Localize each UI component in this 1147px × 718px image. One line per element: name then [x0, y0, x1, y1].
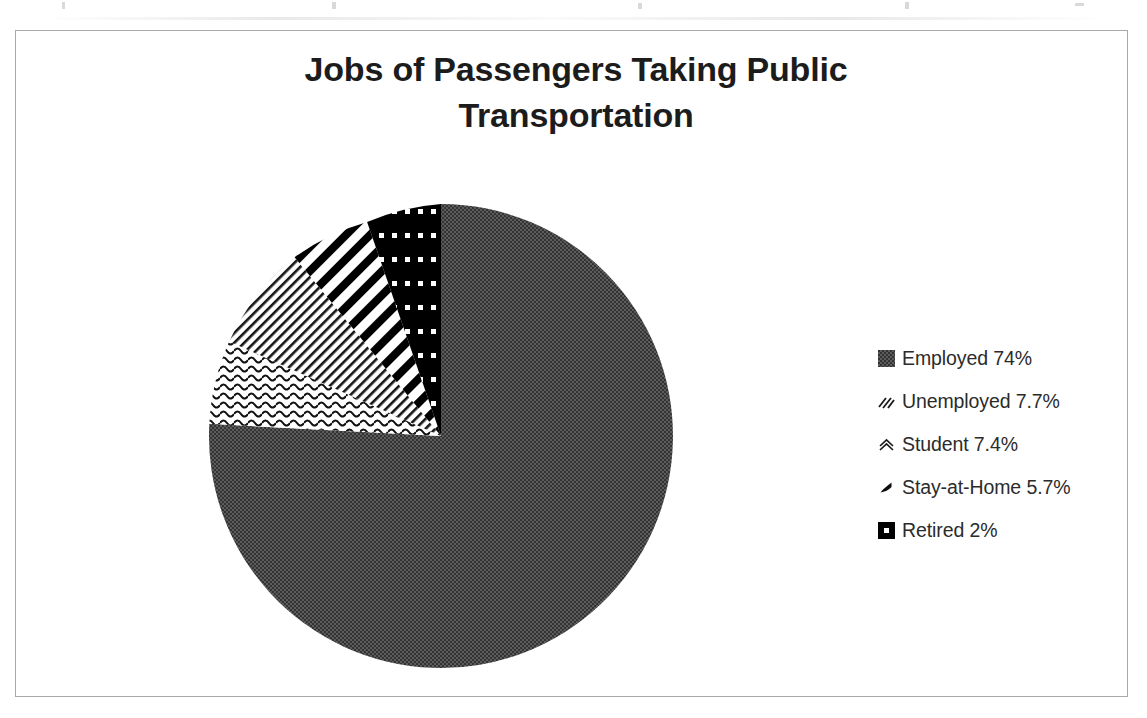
legend-label-student: Student 7.4% [902, 433, 1018, 456]
scan-speck [332, 2, 336, 9]
legend-swatch-unemployed [878, 393, 895, 410]
legend-item-employed[interactable]: Employed 74% [878, 337, 1128, 380]
legend-label-stay-at-home: Stay-at-Home 5.7% [902, 476, 1070, 499]
legend-label-employed: Employed 74% [902, 347, 1032, 370]
legend-item-student[interactable]: Student 7.4% [878, 423, 1128, 466]
legend-swatch-student [878, 436, 895, 453]
pie-svg [206, 201, 676, 671]
legend-swatch-stay-at-home [878, 479, 895, 496]
scan-speck [905, 2, 909, 9]
scan-artifacts [0, 0, 1147, 26]
legend-label-unemployed: Unemployed 7.7% [902, 390, 1060, 413]
chart-title: Jobs of Passengers Taking Public Transpo… [196, 47, 956, 138]
legend-swatch-retired [878, 522, 895, 539]
legend-label-retired: Retired 2% [902, 519, 997, 542]
pie-chart [206, 201, 676, 671]
scan-speck [62, 2, 65, 9]
scan-speck [638, 3, 642, 9]
legend-item-unemployed[interactable]: Unemployed 7.7% [878, 380, 1128, 423]
chart-legend: Employed 74% Unemployed 7.7% [878, 337, 1128, 552]
legend-swatch-employed [878, 350, 895, 367]
chart-frame: Jobs of Passengers Taking Public Transpo… [15, 30, 1128, 697]
legend-item-stay-at-home[interactable]: Stay-at-Home 5.7% [878, 466, 1128, 509]
legend-item-retired[interactable]: Retired 2% [878, 509, 1128, 552]
scan-speck [1075, 3, 1084, 6]
scan-smudge [40, 17, 1110, 20]
